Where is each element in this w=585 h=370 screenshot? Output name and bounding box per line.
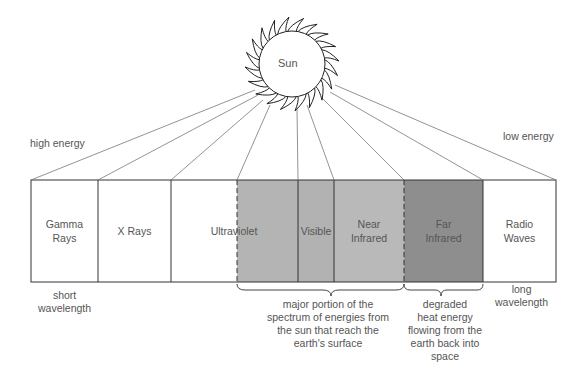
band-x-rays: X Rays — [98, 180, 171, 282]
degraded-heat-annotation: degraded heat energy flowing from the ea… — [405, 298, 485, 363]
high-energy-label: high energy — [30, 137, 85, 150]
band-near-infrared: NearInfrared — [334, 180, 404, 282]
band-radio-waves: RadioWaves — [483, 180, 556, 282]
earth-surface-annotation: major portion of the spectrum of energie… — [258, 298, 398, 350]
band-ultraviolet: Ultraviolet — [171, 180, 297, 282]
band-visible: Visible — [298, 180, 334, 282]
low-energy-label: low energy — [503, 130, 554, 143]
band-far-infrared: FarInfrared — [404, 180, 483, 282]
sun-label: Sun — [278, 57, 298, 70]
long-wavelength-label: longwavelength — [495, 283, 548, 309]
band-gamma-rays: GammaRays — [31, 180, 98, 282]
short-wavelength-label: shortwavelength — [38, 289, 91, 315]
